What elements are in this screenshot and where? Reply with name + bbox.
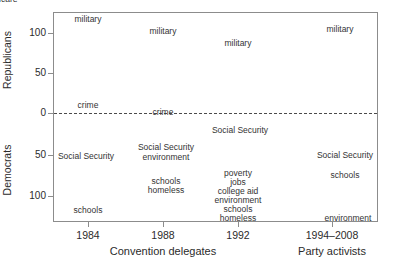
x-tick-label-1988: 1988 — [151, 230, 174, 241]
data-label-rep-1984-crime: crime — [78, 101, 99, 111]
x-axis-title-party-activists: Party activists — [298, 245, 366, 257]
y-tick-label-0: 0 — [18, 108, 46, 118]
plot-area — [53, 12, 378, 222]
y-axis-title-democrats: Democrats — [0, 140, 14, 200]
data-label-dem-1984-social-security: Social Security — [58, 152, 114, 162]
y-tick-label-100-top: 100 — [18, 28, 46, 38]
x-tick-mark-1984 — [88, 222, 89, 227]
x-tick-label-1994-2008: 1994–2008 — [306, 230, 359, 241]
data-label-dem-activists-social-security: Social Security — [317, 151, 373, 161]
y-tick-label-50-bottom: 50 — [18, 150, 46, 160]
x-tick-label-1992: 1992 — [226, 230, 249, 241]
zero-reference-line — [54, 113, 377, 114]
data-label-dem-1988-homeless: homeless — [148, 186, 184, 196]
data-label-rep-1988-military: military — [150, 27, 177, 37]
data-label-rep-1988-crime: crime — [153, 108, 174, 118]
chart-figure: Republicans Democrats 100 50 0 50 100 19… — [0, 0, 396, 267]
x-axis-title-convention-delegates: Convention delegates — [110, 245, 216, 257]
y-axis-title-democrats-text: Democrats — [1, 145, 13, 196]
data-label-dem-activists-environment: environment — [325, 214, 372, 224]
data-label-rep-1984-military: military — [75, 15, 102, 25]
x-tick-label-1984: 1984 — [76, 230, 99, 241]
y-axis-title-republicans-text: Republicans — [1, 31, 13, 89]
data-label-rep-1992-military: military — [225, 39, 252, 49]
data-label-dem-activists-schools: schools — [331, 171, 360, 181]
data-label-dem-1992-homeless: homeless — [220, 214, 256, 224]
y-axis-title-republicans: Republicans — [0, 30, 14, 90]
data-label-dem-1988-environment: environment — [143, 153, 190, 163]
y-tick-label-100-bottom: 100 — [18, 191, 46, 201]
x-tick-mark-1988 — [163, 222, 164, 227]
data-label-dem-1984-schools: schools — [74, 206, 103, 216]
data-label-dem-1992-social-security: Social Security — [212, 126, 268, 136]
data-label-dem-1984-medicare: Medicare — [0, 0, 17, 5]
y-tick-label-50-top: 50 — [18, 68, 46, 78]
data-label-rep-activists-military: military — [327, 25, 354, 35]
